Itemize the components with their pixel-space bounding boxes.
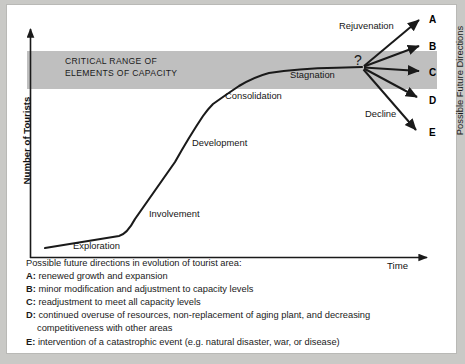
caption-key-a: A: <box>26 271 36 281</box>
right-axis-title: Possible Future Directions <box>454 6 465 156</box>
branch-letter-a: A <box>429 14 436 25</box>
caption-item-a: A: renewed growth and expansion <box>26 270 446 283</box>
branch-letter-e: E <box>429 127 436 138</box>
capacity-band-line2: ELEMENTS OF CAPACITY <box>65 68 177 78</box>
caption-text-d-wrap: competitiveness with other areas <box>26 322 446 335</box>
caption-item-b: B: minor modification and adjustment to … <box>26 283 446 296</box>
label-development: Development <box>192 137 247 148</box>
caption-item-e: E: intervention of a catastrophic event … <box>26 336 446 349</box>
caption-item-c: C: readjustment to meet all capacity lev… <box>26 296 446 309</box>
caption-key-e: E: <box>26 337 35 347</box>
caption-text-c: readjustment to meet all capacity levels <box>36 297 201 307</box>
caption-key-c: C: <box>26 297 36 307</box>
capacity-band-label: CRITICAL RANGE OFELEMENTS OF CAPACITY <box>65 56 177 79</box>
chart-area: ? CRITICAL RANGE OFELEMENTS OF CAPACITY … <box>7 5 458 265</box>
question-mark-label: ? <box>354 52 362 68</box>
capacity-band-line1: CRITICAL RANGE OF <box>65 56 157 66</box>
caption-item-d: D: continued overuse of resources, non-r… <box>26 309 446 335</box>
caption-text-a: renewed growth and expansion <box>36 271 168 281</box>
life-cycle-curve <box>45 67 362 248</box>
label-involvement: Involvement <box>149 208 200 219</box>
label-exploration: Exploration <box>73 240 120 251</box>
branch-letter-b: B <box>429 41 436 52</box>
label-decline: Decline <box>365 108 396 119</box>
caption-intro: Possible future directions in evolution … <box>26 257 446 270</box>
label-stagnation: Stagnation <box>290 69 335 80</box>
branch-letter-d: D <box>429 95 436 106</box>
caption-key-d: D: <box>26 310 36 320</box>
figure-panel: ? CRITICAL RANGE OFELEMENTS OF CAPACITY … <box>6 4 457 354</box>
branch-letter-c: C <box>429 67 436 78</box>
caption-text-d: continued overuse of resources, non-repl… <box>36 310 370 320</box>
label-rejuvenation: Rejuvenation <box>339 20 394 31</box>
label-consolidation: Consolidation <box>225 90 282 101</box>
figure-caption: Possible future directions in evolution … <box>26 257 446 349</box>
caption-key-b: B: <box>26 284 36 294</box>
life-cycle-svg <box>7 5 458 265</box>
y-axis-title: Number of Tourists <box>21 86 32 196</box>
caption-text-e: intervention of a catastrophic event (e.… <box>35 337 339 347</box>
caption-text-b: minor modification and adjustment to cap… <box>36 284 254 294</box>
